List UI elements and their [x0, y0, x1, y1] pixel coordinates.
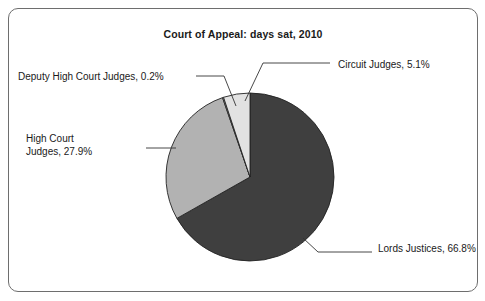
slice-label-circuit-judges: Circuit Judges, 5.1% [338, 58, 478, 71]
slice-label-lords-justices: Lords Justices, 66.8% [378, 242, 485, 255]
leader-line-lords-justices [303, 238, 372, 252]
slice-label-deputy-high-court-judges: Deputy High Court Judges, 0.2% [18, 70, 198, 83]
slice-label-high-court-judges: High Court Judges, 27.9% [26, 132, 161, 158]
pie-slices [166, 93, 334, 261]
